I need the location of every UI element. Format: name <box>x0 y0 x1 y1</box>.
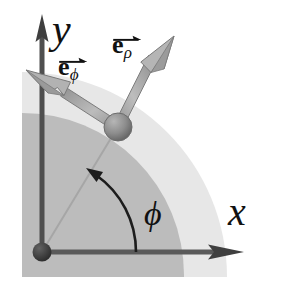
y-axis-label: y <box>52 8 71 50</box>
vector-arrow-icon <box>112 32 141 43</box>
e-phi-vector-symbol: e <box>58 54 70 80</box>
phi-angle-label: ϕ <box>144 197 162 231</box>
e-rho-label: e ρ <box>112 32 132 58</box>
point-marker-sphere <box>104 113 132 141</box>
figure-canvas: y x e ϕ e ρ ϕ <box>0 0 285 293</box>
e-phi-label: e ϕ <box>58 54 78 80</box>
origin-dot <box>33 243 52 262</box>
e-rho-vector-symbol: e <box>112 32 124 58</box>
e-phi-subscript: ϕ <box>70 65 79 84</box>
vector-diagram-svg <box>0 0 285 293</box>
vector-arrow-icon <box>58 54 87 65</box>
e-rho-subscript: ρ <box>124 43 132 62</box>
x-axis-label: x <box>228 192 246 232</box>
